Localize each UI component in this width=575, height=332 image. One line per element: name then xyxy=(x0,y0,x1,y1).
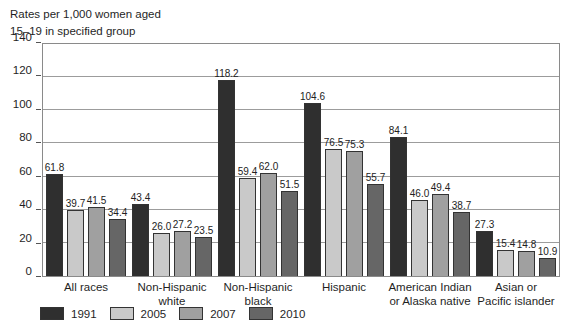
x-axis-category-label: All races xyxy=(43,281,129,308)
bar-value-label: 39.7 xyxy=(66,198,85,209)
y-tick-label: 20 xyxy=(19,232,32,244)
x-axis-category-label-line: Non-Hispanic xyxy=(215,281,301,295)
y-tick-label: 100 xyxy=(13,98,32,110)
y-tick-mark xyxy=(36,109,41,110)
bar-group: 104.676.575.355.7 xyxy=(301,43,387,276)
bar-column: 41.5 xyxy=(88,195,105,276)
bar-column: 61.8 xyxy=(46,162,63,276)
chart-title: Rates per 1,000 women aged 15–19 in spec… xyxy=(10,6,161,39)
x-axis-category-label: Non-Hispanicblack xyxy=(215,281,301,308)
bar-value-label: 41.5 xyxy=(87,195,106,206)
x-axis-category-label-line: American Indian xyxy=(387,281,473,295)
bar-column: 43.4 xyxy=(132,192,149,276)
bar-column: 27.2 xyxy=(174,219,191,276)
bar-column: 104.6 xyxy=(304,91,321,276)
chart-title-line2: 15–19 in specified group xyxy=(10,23,161,40)
bar xyxy=(390,137,407,276)
bar xyxy=(132,204,149,276)
y-tick-mark xyxy=(36,243,41,244)
bar-value-label: 15.4 xyxy=(496,238,515,249)
x-axis-category-label: American Indianor Alaska native xyxy=(387,281,473,308)
x-axis-category-label-line: Asian or xyxy=(473,281,559,295)
bar-value-label: 118.2 xyxy=(214,68,238,79)
bar-column: 55.7 xyxy=(367,172,384,276)
legend-item: 2007 xyxy=(179,307,236,320)
bar-value-label: 51.5 xyxy=(280,179,299,190)
y-tick-label: 60 xyxy=(19,165,32,177)
bar xyxy=(346,151,363,276)
bar-column: 51.5 xyxy=(281,179,298,276)
legend-swatch xyxy=(40,307,64,320)
x-axis-category-label-line: white xyxy=(129,295,215,309)
bar-column: 10.9 xyxy=(539,246,556,276)
bar xyxy=(260,173,277,276)
legend-swatch xyxy=(179,307,203,320)
bar xyxy=(367,184,384,276)
legend-label: 2010 xyxy=(280,308,306,320)
bar-group: 43.426.027.223.5 xyxy=(129,43,215,276)
bar-value-label: 38.7 xyxy=(452,200,471,211)
bar-column: 62.0 xyxy=(260,161,277,276)
bar-value-label: 34.4 xyxy=(108,207,127,218)
bar-column: 59.4 xyxy=(239,166,256,276)
bar xyxy=(497,250,514,276)
y-tick-label: 0 xyxy=(26,265,32,277)
y-tick-mark xyxy=(36,209,41,210)
x-axis-category-label-line: black xyxy=(215,295,301,309)
legend-label: 1991 xyxy=(71,308,97,320)
bar-value-label: 49.4 xyxy=(431,182,450,193)
bar xyxy=(539,258,556,276)
bar xyxy=(153,233,170,276)
y-tick-label: 120 xyxy=(13,64,32,76)
bar xyxy=(195,237,212,276)
legend-label: 2005 xyxy=(141,308,167,320)
bar-value-label: 104.6 xyxy=(300,91,325,102)
y-tick-label: 140 xyxy=(13,31,32,43)
y-axis: 020406080100120140 xyxy=(0,43,42,277)
bar-group: 84.146.049.438.7 xyxy=(387,43,473,276)
bar-value-label: 27.2 xyxy=(173,219,192,230)
bar xyxy=(476,231,493,276)
bar-value-label: 27.3 xyxy=(475,219,494,230)
bar-column: 46.0 xyxy=(411,188,428,276)
y-tick-mark xyxy=(36,75,41,76)
bar-value-label: 84.1 xyxy=(389,125,408,136)
x-axis-category-label-line: Hispanic xyxy=(301,281,387,295)
bar-column: 34.4 xyxy=(109,207,126,276)
y-tick-mark xyxy=(36,176,41,177)
bar-column: 14.8 xyxy=(518,239,535,276)
x-axis-category-label-line: or Alaska native xyxy=(387,295,473,309)
bar-value-label: 10.9 xyxy=(538,246,557,257)
bar-group: 61.839.741.534.4 xyxy=(43,43,129,276)
y-tick-label: 80 xyxy=(19,131,32,143)
x-axis-labels: All racesNon-HispanicwhiteNon-Hispanicbl… xyxy=(43,281,559,308)
y-tick-mark xyxy=(36,142,41,143)
bar xyxy=(304,103,321,276)
y-tick-mark xyxy=(36,276,41,277)
teen-birth-rates-bar-chart: Rates per 1,000 women aged 15–19 in spec… xyxy=(0,0,575,332)
bar-value-label: 26.0 xyxy=(152,221,171,232)
bar-column: 26.0 xyxy=(153,221,170,276)
bar-column: 76.5 xyxy=(325,137,342,276)
bar-value-label: 23.5 xyxy=(194,225,213,236)
bar-column: 39.7 xyxy=(67,198,84,276)
bar xyxy=(411,200,428,276)
legend-label: 2007 xyxy=(210,308,236,320)
legend-swatch xyxy=(110,307,134,320)
bar-value-label: 55.7 xyxy=(366,172,385,183)
y-tick-mark xyxy=(36,42,41,43)
bar-column: 23.5 xyxy=(195,225,212,276)
bar xyxy=(46,174,63,276)
bar-group: 118.259.462.051.5 xyxy=(215,43,301,276)
x-axis-category-label-line: Non-Hispanic xyxy=(129,281,215,295)
bar xyxy=(67,210,84,276)
bar-column: 84.1 xyxy=(390,125,407,276)
x-axis-category-label: Asian orPacific islander xyxy=(473,281,559,308)
bar xyxy=(88,207,105,276)
bar-column: 15.4 xyxy=(497,238,514,276)
bar xyxy=(218,80,235,276)
legend-swatch xyxy=(249,307,273,320)
bar-column: 38.7 xyxy=(453,200,470,276)
bar xyxy=(518,251,535,276)
legend-item: 1991 xyxy=(40,307,97,320)
